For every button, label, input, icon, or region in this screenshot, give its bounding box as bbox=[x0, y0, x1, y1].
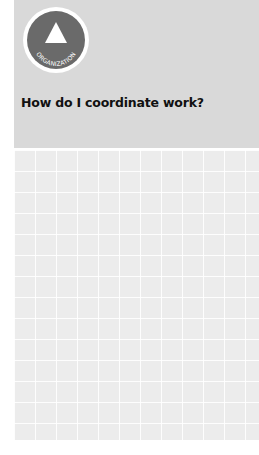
header-panel: ORGANIZATION How do I coordinate work? bbox=[14, 0, 259, 148]
grid-area bbox=[14, 150, 259, 440]
badge-circle: ORGANIZATION bbox=[27, 11, 85, 69]
page-title: How do I coordinate work? bbox=[21, 95, 204, 110]
badge-label: ORGANIZATION bbox=[27, 11, 85, 69]
svg-text:ORGANIZATION: ORGANIZATION bbox=[35, 50, 76, 67]
organization-badge: ORGANIZATION bbox=[23, 7, 89, 73]
